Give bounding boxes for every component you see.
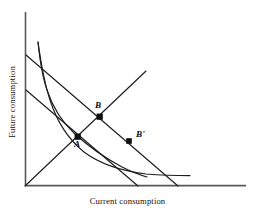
- economics-figure: A B B' Current consumption Future consum…: [0, 0, 255, 212]
- point-marker-b: [97, 114, 103, 120]
- point-marker-b-prime: [126, 138, 132, 144]
- plot-canvas: [0, 0, 255, 212]
- initial-budget-line: [26, 90, 138, 186]
- indifference-curve-high: [38, 42, 190, 176]
- point-label-a: A: [74, 140, 80, 149]
- income-expansion-ray: [25, 71, 146, 186]
- y-axis-label: Future consumption: [7, 42, 17, 162]
- indifference-curve-low: [38, 42, 147, 177]
- new-budget-line: [26, 55, 178, 186]
- x-axis-label: Current consumption: [0, 196, 255, 206]
- point-label-b: B: [95, 101, 101, 110]
- point-label-b-prime: B': [136, 130, 145, 139]
